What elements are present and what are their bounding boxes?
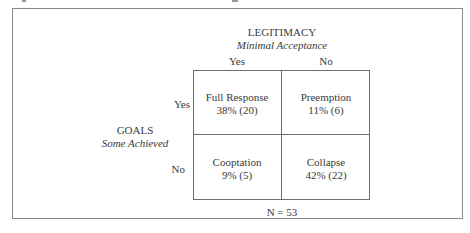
- cell-value: 42% (22): [282, 169, 370, 182]
- cell-full-response: Full Response 38% (20): [193, 91, 281, 117]
- sample-size-footer: N = 53: [242, 206, 322, 219]
- cell-label: Preemption: [282, 91, 370, 104]
- row-label-no: No: [155, 163, 185, 176]
- cell-value: 9% (5): [193, 169, 281, 182]
- cell-value: 11% (6): [282, 104, 370, 117]
- cell-cooptation: Cooptation 9% (5): [193, 156, 281, 182]
- legitimacy-title: LEGITIMACY: [232, 26, 332, 39]
- cell-label: Full Response: [193, 91, 281, 104]
- cell-label: Cooptation: [193, 156, 281, 169]
- row-label-yes: Yes: [160, 98, 190, 111]
- legitimacy-subtitle: Minimal Acceptance: [222, 39, 342, 52]
- grid-horizontal-divider: [193, 134, 370, 135]
- column-label-no: No: [306, 55, 346, 68]
- cell-preemption: Preemption 11% (6): [282, 91, 370, 117]
- goals-subtitle: Some Achieved: [90, 137, 180, 150]
- goals-title: GOALS: [95, 124, 175, 137]
- cell-collapse: Collapse 42% (22): [282, 156, 370, 182]
- cropped-text-fragment: [22, 0, 26, 2]
- cell-label: Collapse: [282, 156, 370, 169]
- column-label-yes: Yes: [217, 55, 257, 68]
- cell-value: 38% (20): [193, 104, 281, 117]
- cropped-text-fragment: [232, 0, 238, 2]
